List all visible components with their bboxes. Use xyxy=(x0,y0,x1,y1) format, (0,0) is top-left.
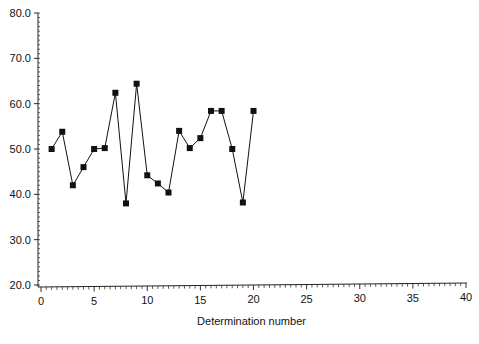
data-point-marker xyxy=(134,81,140,87)
data-point-marker xyxy=(176,128,182,134)
data-point-marker xyxy=(166,190,172,196)
x-tick-label: 15 xyxy=(194,294,206,306)
data-point-marker xyxy=(59,129,65,135)
y-tick-label: 80.0 xyxy=(10,7,31,19)
y-axis: 20.030.040.050.060.070.080.0 xyxy=(10,7,40,291)
data-point-marker xyxy=(187,145,193,151)
x-axis-title: Determination number xyxy=(197,315,306,327)
x-tick-label: 25 xyxy=(301,293,313,305)
data-point-marker xyxy=(240,199,246,205)
x-tick-label: 35 xyxy=(407,292,419,304)
data-point-marker xyxy=(144,172,150,178)
x-tick-label: 20 xyxy=(247,293,259,305)
x-axis: 0510152025303540 xyxy=(38,283,472,307)
y-tick-label: 70.0 xyxy=(10,52,31,64)
y-tick-label: 50.0 xyxy=(10,143,31,155)
data-point-marker xyxy=(81,164,87,170)
y-tick-label: 30.0 xyxy=(10,234,31,246)
x-tick-label: 5 xyxy=(91,295,97,307)
data-point-marker xyxy=(112,90,118,96)
series-line xyxy=(52,84,254,204)
chart: 20.030.040.050.060.070.080.0 05101520253… xyxy=(0,0,479,344)
y-tick-label: 40.0 xyxy=(10,188,31,200)
data-point-marker xyxy=(155,180,161,186)
data-point-marker xyxy=(102,145,108,151)
data-point-marker xyxy=(49,146,55,152)
data-point-marker xyxy=(123,200,129,206)
data-point-marker xyxy=(229,146,235,152)
x-tick-label: 40 xyxy=(460,291,472,303)
data-point-marker xyxy=(91,146,97,152)
data-point-marker xyxy=(197,135,203,141)
data-point-marker xyxy=(219,108,225,114)
x-tick-label: 0 xyxy=(38,295,44,307)
y-tick-label: 60.0 xyxy=(10,98,31,110)
x-tick-label: 30 xyxy=(354,292,366,304)
y-tick-label: 20.0 xyxy=(10,279,31,291)
x-tick-label: 10 xyxy=(141,294,153,306)
data-point-marker xyxy=(251,108,257,114)
data-point-marker xyxy=(70,182,76,188)
series-layer xyxy=(49,81,257,207)
data-point-marker xyxy=(208,108,214,114)
